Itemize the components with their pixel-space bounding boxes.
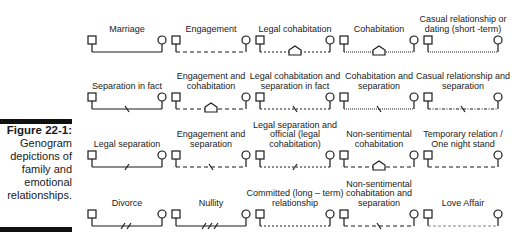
genogram-grid: MarriageEngagementLegal cohabitationCoha… [84,0,512,236]
female-circle-icon [326,93,334,101]
relationship-symbol [168,208,254,232]
relationship-symbol [252,34,338,58]
relationship-symbol [420,91,506,115]
relationship-label: Casual relationship or dating (short -te… [414,15,512,34]
male-square-icon [256,93,264,101]
relationship-symbol [420,34,506,58]
relationship-symbol [84,34,170,58]
relationship-cell: Temporary relation / One night stand [420,115,506,173]
relationship-cell: Love Affair [420,174,506,232]
house-icon [289,46,301,55]
female-circle-icon [494,93,502,101]
relationship-cell: Legal separation [84,115,170,173]
female-circle-icon [410,93,418,101]
male-square-icon [172,93,180,101]
female-circle-icon [158,36,166,44]
house-icon [373,46,385,55]
female-circle-icon [326,151,334,159]
female-circle-icon [410,36,418,44]
relationship-symbol [168,34,254,58]
relationship-cell: Engagement and separation [168,115,254,173]
female-circle-icon [326,36,334,44]
female-circle-icon [494,151,502,159]
relationship-cell: Cohabitation and separation [336,57,422,115]
male-square-icon [340,93,348,101]
female-circle-icon [326,210,334,218]
female-circle-icon [242,210,250,218]
relationship-cell: Divorce [84,174,170,232]
female-circle-icon [410,210,418,218]
female-circle-icon [158,210,166,218]
relationship-cell: Engagement and cohabitation [168,57,254,115]
male-square-icon [88,93,96,101]
female-circle-icon [494,210,502,218]
relationship-cell: Casual relationship or dating (short -te… [420,0,506,58]
male-square-icon [88,210,96,218]
male-square-icon [88,36,96,44]
male-square-icon [256,36,264,44]
female-circle-icon [242,151,250,159]
male-square-icon [424,210,432,218]
relationship-symbol [336,208,422,232]
relationship-cell: Non-sentimental cohabitation and separat… [336,174,422,232]
relationship-symbol [252,149,338,173]
male-square-icon [172,151,180,159]
relationship-symbol [168,149,254,173]
relationship-symbol [420,149,506,173]
relationship-symbol [252,208,338,232]
female-circle-icon [410,151,418,159]
relationship-label: Casual relationship and separation [414,72,512,91]
male-square-icon [256,151,264,159]
relationship-symbol [336,91,422,115]
relationship-cell: Legal cohabitation and separation in fac… [252,57,338,115]
relationship-cell: Casual relationship and separation [420,57,506,115]
caption-title: Figure 22-1: [0,124,72,137]
male-square-icon [172,210,180,218]
male-square-icon [424,151,432,159]
female-circle-icon [242,93,250,101]
relationship-cell: Non-sentimental cohabitation [336,115,422,173]
relationship-cell: Separation in fact [84,57,170,115]
male-square-icon [424,36,432,44]
relationship-cell: Legal cohabitation [252,0,338,58]
relationship-cell: Cohabitation [336,0,422,58]
caption-body: Genogram depictions of family and emotio… [0,137,72,202]
male-square-icon [256,210,264,218]
female-circle-icon [242,36,250,44]
male-square-icon [172,36,180,44]
female-circle-icon [158,93,166,101]
relationship-cell: Engagement [168,0,254,58]
relationship-label: Love Affair [414,199,512,209]
female-circle-icon [158,151,166,159]
female-circle-icon [494,36,502,44]
relationship-symbol [84,149,170,173]
relationship-symbol [168,91,254,115]
house-icon [373,161,385,170]
male-square-icon [340,36,348,44]
relationship-label: Temporary relation / One night stand [414,130,512,149]
caption-bottom-bar [0,227,72,232]
male-square-icon [424,93,432,101]
relationship-symbol [336,34,422,58]
relationship-cell: Legal separation and official (legal coh… [252,115,338,173]
relationship-cell: Marriage [84,0,170,58]
relationship-symbol [84,91,170,115]
male-square-icon [340,210,348,218]
relationship-symbol [252,91,338,115]
figure-caption: Figure 22-1: Genogram depictions of fami… [0,124,72,202]
relationship-cell: Committed (long – term) relationship [252,174,338,232]
relationship-cell: Nullity [168,174,254,232]
male-square-icon [340,151,348,159]
male-square-icon [88,151,96,159]
relationship-symbol [420,208,506,232]
house-icon [205,103,217,112]
relationship-symbol [84,208,170,232]
relationship-symbol [336,149,422,173]
